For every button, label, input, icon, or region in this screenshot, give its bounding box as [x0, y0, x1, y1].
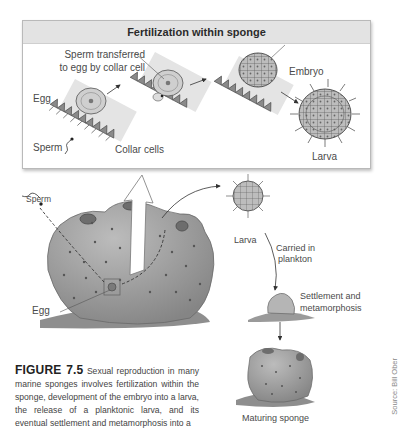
image-credit: Source: Bill Ober	[390, 358, 399, 415]
sperm-icon	[65, 140, 71, 154]
label-sperm: Sperm	[33, 142, 62, 154]
arrow-icon	[107, 85, 120, 94]
label-settlement: Settlement and	[300, 290, 361, 302]
label-metamorphosis: metamorphosis	[300, 302, 362, 314]
label-maturing-sponge: Maturing sponge	[242, 412, 309, 424]
fertilization-panel: Fertilization within sponge	[22, 20, 371, 169]
figure-number: FIGURE 7.5	[15, 363, 83, 377]
label-sperm: Sperm	[26, 193, 51, 205]
label-sperm-transferred-2: to egg by collar cell	[39, 62, 145, 74]
panel-illustration	[23, 21, 370, 168]
label-collar-cells: Collar cells	[115, 144, 164, 156]
figure-caption: FIGURE 7.5 Sexual reproduction in many m…	[15, 364, 199, 430]
label-larva: Larva	[312, 151, 337, 163]
label-embryo: Embryo	[289, 66, 323, 78]
label-larva: Larva	[234, 234, 257, 246]
label-egg: Egg	[32, 305, 50, 317]
larva-icon	[290, 79, 360, 147]
label-plankton: plankton	[278, 253, 312, 265]
label-sperm-transferred-1: Sperm transferred	[39, 49, 145, 61]
label-egg: Egg	[33, 93, 51, 105]
